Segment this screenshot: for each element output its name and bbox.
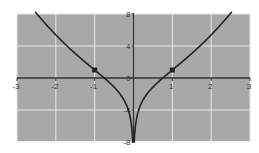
y-tick-label: 4 <box>126 42 131 51</box>
data-point-marker <box>170 68 175 73</box>
x-tick-label: 1 <box>169 82 174 91</box>
y-tick-label: 0 <box>126 74 131 83</box>
x-tick-label: -1 <box>90 82 98 91</box>
x-tick-label: -2 <box>51 82 59 91</box>
y-tick-label: -8 <box>123 138 131 147</box>
x-tick-label: 3 <box>247 82 252 91</box>
y-tick-label: 8 <box>126 10 131 19</box>
function-plot: -3-2-1123 840-4-8 <box>0 0 259 153</box>
x-tick-label: 2 <box>208 82 213 91</box>
data-point-marker <box>92 68 97 73</box>
x-tick-label: -3 <box>12 82 20 91</box>
